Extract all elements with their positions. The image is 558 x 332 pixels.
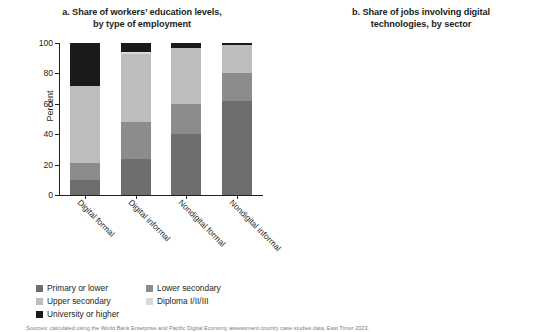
legend-label: University or higher: [47, 308, 119, 320]
y-tick: [55, 195, 59, 196]
legend-swatch: [36, 298, 43, 305]
source-note: Sources: calculated using the World Bank…: [26, 325, 536, 332]
legend-swatch: [146, 298, 153, 305]
bar-segment: [70, 163, 100, 180]
x-tick: [186, 195, 187, 199]
x-tick: [136, 195, 137, 199]
y-tick-label: 20: [43, 160, 53, 169]
bar-segment: [121, 43, 151, 52]
y-tick-label: 0: [48, 191, 53, 200]
panel-a-plot-area: Percent 020406080100 Digital formalDigit…: [60, 43, 262, 195]
panel-b: b. Share of jobs involving digital techn…: [284, 0, 558, 332]
x-tick: [85, 195, 86, 199]
bar-segment: [70, 43, 100, 86]
panel-b-title-line2: technologies, by sector: [371, 19, 471, 29]
panel-a-title-line2: by type of employment: [93, 19, 191, 29]
panel-a: a. Share of workers’ education levels, b…: [0, 0, 284, 332]
bar-segment: [171, 134, 201, 195]
bar-segment: [222, 45, 252, 74]
panel-a-x-tick-labels: Digital formalDigital informalNondigital…: [60, 195, 262, 265]
panel-a-bars: [60, 43, 262, 195]
y-tick-label: 60: [43, 100, 53, 109]
bar-segment: [222, 73, 252, 100]
bar-segment: [171, 48, 201, 104]
panel-a-title-line1: a. Share of workers’ education levels,: [62, 7, 222, 17]
legend-item[interactable]: Primary or lower: [36, 282, 146, 294]
bar-segment: [121, 122, 151, 158]
bar-nondigital-formal[interactable]: [171, 43, 201, 195]
panel-b-title-line1: b. Share of jobs involving digital: [352, 7, 490, 17]
x-tick-label: Digital formal: [76, 198, 116, 238]
legend-swatch: [146, 285, 153, 292]
y-tick: [55, 43, 59, 44]
bar-segment: [121, 159, 151, 195]
legend-item[interactable]: University or higher: [36, 308, 146, 320]
figure-container: a. Share of workers’ education levels, b…: [0, 0, 558, 332]
x-tick: [237, 195, 238, 199]
y-tick-label: 40: [43, 130, 53, 139]
y-tick: [55, 134, 59, 135]
legend-label: Diploma I/II/III: [157, 295, 209, 307]
panel-b-title: b. Share of jobs involving digital techn…: [284, 7, 558, 30]
panel-a-title: a. Share of workers’ education levels, b…: [0, 7, 284, 30]
y-tick: [55, 104, 59, 105]
y-tick-label: 100: [39, 39, 53, 48]
legend-label: Primary or lower: [47, 282, 108, 294]
bar-digital-informal[interactable]: [121, 43, 151, 195]
legend-label: Upper secondary: [47, 295, 111, 307]
x-tick-label: Nondigital informal: [228, 198, 282, 252]
bar-segment: [70, 86, 100, 164]
bar-segment: [171, 104, 201, 134]
bar-digital-formal[interactable]: [70, 43, 100, 195]
legend-item[interactable]: Lower secondary: [146, 282, 256, 294]
x-tick-label: Digital informal: [127, 198, 172, 243]
panel-a-legend: Primary or lowerLower secondaryUpper sec…: [36, 282, 256, 321]
x-tick-label: Nondigital formal: [177, 198, 227, 248]
legend-swatch: [36, 311, 43, 318]
bar-segment: [70, 180, 100, 195]
bar-segment: [121, 54, 151, 122]
y-tick: [55, 73, 59, 74]
legend-swatch: [36, 285, 43, 292]
legend-label: Lower secondary: [157, 282, 221, 294]
bar-nondigital-informal[interactable]: [222, 43, 252, 195]
legend-item[interactable]: Upper secondary: [36, 295, 146, 307]
bar-segment: [222, 101, 252, 195]
y-tick: [55, 165, 59, 166]
legend-item[interactable]: Diploma I/II/III: [146, 295, 256, 307]
y-tick-label: 80: [43, 69, 53, 78]
